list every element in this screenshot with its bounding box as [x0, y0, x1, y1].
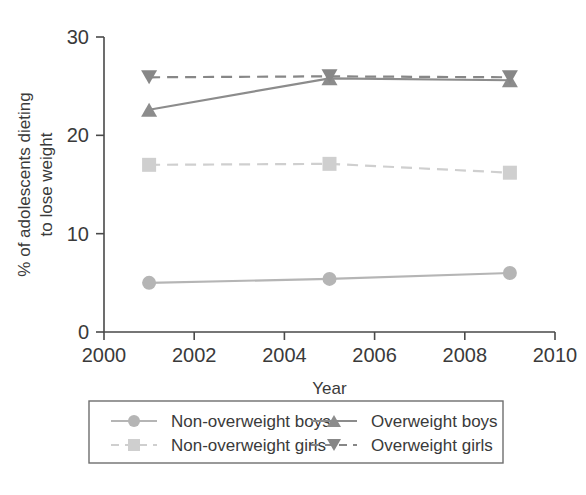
data-point-3: [502, 70, 518, 84]
y-axis-title-line2: to lose weight: [37, 132, 56, 236]
y-tick-label: 20: [67, 124, 89, 146]
x-tick-label: 2002: [172, 344, 217, 366]
line-chart: 0102030200020022004200620082010Year% of …: [0, 0, 586, 495]
x-tick-label: 2010: [533, 344, 578, 366]
x-axis-title: Year: [312, 379, 347, 398]
legend-label-0: Non-overweight boys: [171, 412, 331, 431]
x-tick-label: 2008: [443, 344, 488, 366]
x-tick-label: 2004: [262, 344, 307, 366]
data-point-0: [323, 272, 337, 286]
legend-marker-2: [128, 439, 140, 451]
legend-label-2: Non-overweight girls: [171, 436, 326, 455]
data-point-2: [323, 157, 337, 171]
y-tick-label: 30: [67, 26, 89, 48]
y-tick-label: 10: [67, 223, 89, 245]
chart-figure: 0102030200020022004200620082010Year% of …: [0, 0, 586, 495]
legend-marker-0: [128, 415, 140, 427]
data-point-0: [142, 276, 156, 290]
data-point-0: [503, 266, 517, 280]
y-axis-title-line1: % of adolescents dieting: [15, 92, 34, 276]
legend-label-1: Overweight boys: [371, 412, 498, 431]
x-tick-label: 2006: [352, 344, 397, 366]
data-point-2: [142, 158, 156, 172]
legend-label-3: Overweight girls: [371, 436, 493, 455]
y-tick-label: 0: [78, 321, 89, 343]
data-point-2: [503, 166, 517, 180]
x-tick-label: 2000: [82, 344, 127, 366]
